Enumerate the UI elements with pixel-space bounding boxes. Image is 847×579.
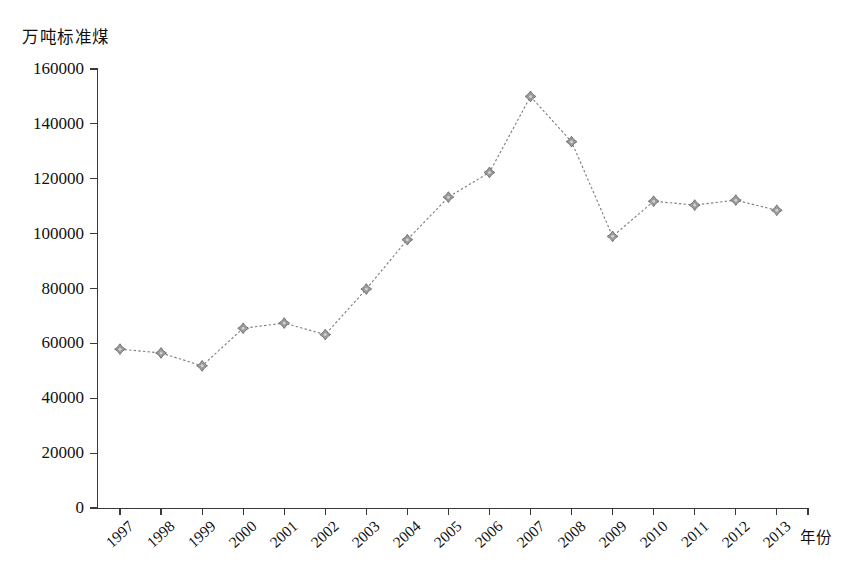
x-tick-mark — [448, 508, 449, 515]
x-axis-end-tick — [807, 508, 808, 515]
y-tick-label: 20000 — [0, 444, 84, 461]
x-tick-mark — [776, 508, 777, 515]
x-tick-label: 2013 — [750, 518, 793, 559]
y-tick-mark — [90, 398, 97, 399]
data-point-marker — [156, 348, 167, 359]
y-tick-label: 140000 — [0, 115, 84, 132]
y-tick-label: 40000 — [0, 389, 84, 406]
x-tick-mark — [653, 508, 654, 515]
data-point-marker — [566, 136, 577, 147]
data-point-marker — [525, 91, 536, 102]
y-tick-label: 0 — [0, 499, 84, 516]
x-tick-label: 2009 — [586, 518, 629, 559]
data-point-marker — [443, 192, 454, 203]
x-tick-mark — [530, 508, 531, 515]
x-tick-label: 2001 — [257, 518, 300, 559]
x-tick-mark — [284, 508, 285, 515]
y-tick-mark — [90, 178, 97, 179]
x-tick-label: 2007 — [504, 518, 547, 559]
x-tick-mark — [694, 508, 695, 515]
y-tick-mark — [90, 68, 97, 69]
data-point-marker — [238, 323, 249, 334]
x-axis-line — [96, 508, 808, 509]
data-point-marker — [771, 205, 782, 216]
y-tick-label: 60000 — [0, 334, 84, 351]
y-tick-mark — [90, 343, 97, 344]
x-tick-label: 2005 — [422, 518, 465, 559]
y-tick-label: 120000 — [0, 170, 84, 187]
y-tick-mark — [90, 233, 97, 234]
data-point-marker — [279, 318, 290, 329]
data-point-marker — [361, 284, 372, 295]
y-tick-mark — [90, 453, 97, 454]
x-tick-mark — [119, 508, 120, 515]
data-point-marker — [115, 344, 126, 355]
x-tick-label: 2004 — [381, 518, 424, 559]
data-point-marker — [320, 329, 331, 340]
series-polyline — [120, 96, 777, 365]
y-tick-mark — [90, 288, 97, 289]
data-point-marker — [648, 196, 659, 207]
x-tick-mark — [366, 508, 367, 515]
y-tick-label: 100000 — [0, 225, 84, 242]
y-axis-unit-label: 万吨标准煤 — [22, 24, 110, 48]
x-tick-label: 1999 — [175, 518, 218, 559]
x-tick-label: 2010 — [627, 518, 670, 559]
data-point-marker — [730, 195, 741, 206]
y-tick-mark — [90, 507, 97, 508]
x-tick-mark — [407, 508, 408, 515]
x-tick-label: 2002 — [299, 518, 342, 559]
x-tick-label: 2011 — [668, 518, 711, 559]
x-tick-mark — [202, 508, 203, 515]
x-tick-label: 2000 — [216, 518, 259, 559]
x-tick-mark — [612, 508, 613, 515]
y-tick-label: 160000 — [0, 60, 84, 77]
x-tick-mark — [571, 508, 572, 515]
x-tick-label: 2006 — [463, 518, 506, 559]
y-axis-line — [97, 68, 98, 509]
data-point-marker — [197, 360, 208, 371]
data-point-marker — [484, 167, 495, 178]
x-tick-mark — [489, 508, 490, 515]
x-tick-label: 2012 — [709, 518, 752, 559]
y-tick-label: 80000 — [0, 280, 84, 297]
data-point-marker — [402, 234, 413, 245]
line-series-svg — [0, 0, 847, 579]
x-tick-mark — [243, 508, 244, 515]
x-tick-label: 2008 — [545, 518, 588, 559]
x-axis-title: 年份 — [800, 525, 832, 547]
x-tick-mark — [735, 508, 736, 515]
y-tick-mark — [90, 123, 97, 124]
x-tick-mark — [160, 508, 161, 515]
x-tick-mark — [325, 508, 326, 515]
series-markers — [115, 91, 783, 371]
data-point-marker — [607, 231, 618, 242]
x-tick-label: 2003 — [340, 518, 383, 559]
energy-consumption-chart: 万吨标准煤 0200004000060000800001000001200001… — [0, 0, 847, 579]
data-point-marker — [689, 200, 700, 211]
x-tick-label: 1998 — [134, 518, 177, 559]
x-tick-label: 1997 — [93, 518, 136, 559]
